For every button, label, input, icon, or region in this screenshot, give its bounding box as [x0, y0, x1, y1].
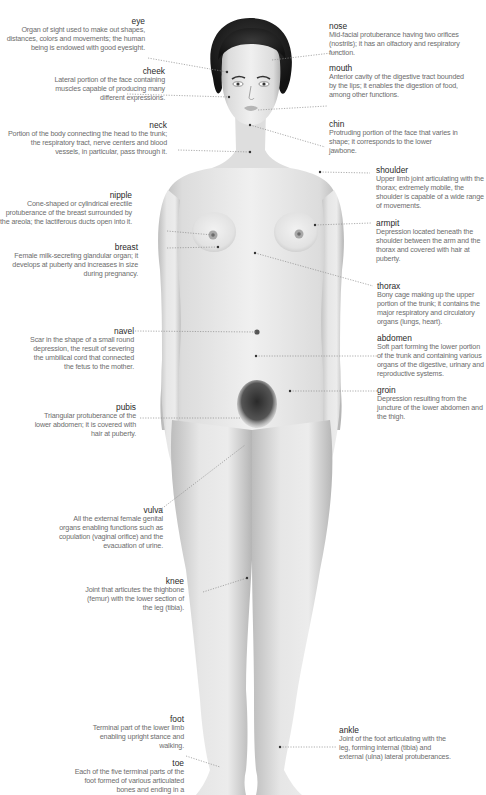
label-chin: chin Protruding portion of the face that…	[329, 119, 459, 156]
label-toe: toe Each of the five terminal parts of t…	[70, 758, 184, 795]
label-description: Soft part forming the lower portion of t…	[377, 343, 485, 379]
label-description: Upper limb joint articulating with the t…	[376, 175, 486, 211]
label-foot: foot Terminal part of the lower limb ena…	[80, 714, 184, 751]
label-description: Bony cage making up the upper portion of…	[377, 291, 485, 327]
label-ankle: ankle Joint of the foot articulating wit…	[339, 725, 457, 762]
label-description: Organ of sight used to make out shapes, …	[5, 26, 145, 53]
label-nose: nose Mid-facial protuberance having two …	[329, 21, 469, 58]
label-description: Joint that articutes the thighbone (femu…	[80, 586, 184, 613]
label-description: All the external female genital organs e…	[55, 515, 163, 551]
label-description: Mid-facial protuberance having two orifi…	[329, 31, 469, 58]
label-cheek: cheek Lateral portion of the face contai…	[5, 66, 165, 103]
label-breast: breast Female milk-secreting glandular o…	[0, 242, 138, 279]
label-pubis: pubis Triangular protuberance of the low…	[30, 402, 136, 439]
label-nipple: nipple Cone-shaped or cylindrical erecti…	[0, 190, 132, 227]
label-description: Each of the five terminal parts of the f…	[70, 768, 184, 795]
label-description: Joint of the foot articulating with the …	[339, 735, 457, 762]
label-description: Lateral portion of the face containing m…	[5, 76, 165, 103]
label-mouth: mouth Anterior cavity of the digestive t…	[329, 63, 469, 100]
label-navel: navel Scar in the shape of a small round…	[30, 326, 134, 372]
label-description: Cone-shaped or cylindrical erectile prot…	[0, 200, 132, 227]
label-description: Triangular protuberance of the lower abd…	[30, 412, 136, 439]
label-armpit: armpit Depression located beneath the sh…	[376, 218, 486, 264]
label-description: Scar in the shape of a small round depre…	[30, 336, 134, 372]
label-groin: groin Depression resulting from the junc…	[377, 385, 485, 422]
label-description: Depression located beneath the shoulder …	[376, 228, 486, 264]
label-description: Protruding portion of the face that vari…	[329, 129, 459, 156]
label-vulva: vulva All the external female genital or…	[55, 505, 163, 551]
label-description: Female milk-secreting glandular organ; i…	[0, 252, 138, 279]
label-description: Portion of the body connecting the head …	[5, 130, 167, 157]
label-thorax: thorax Bony cage making up the upper por…	[377, 281, 485, 327]
label-description: Terminal part of the lower limb enabling…	[80, 724, 184, 751]
right-leg	[252, 420, 332, 795]
label-eye: eye Organ of sight used to make out shap…	[5, 16, 145, 53]
label-description: Anterior cavity of the digestive tract b…	[329, 73, 469, 100]
pubic-hair	[237, 380, 277, 428]
label-knee: knee Joint that articutes the thighbone …	[80, 576, 184, 613]
label-shoulder: shoulder Upper limb joint articulating w…	[376, 165, 486, 211]
label-abdomen: abdomen Soft part forming the lower port…	[377, 333, 485, 379]
label-description: Depression resulting from the juncture o…	[377, 395, 485, 422]
label-neck: neck Portion of the body connecting the …	[5, 120, 167, 157]
face	[222, 40, 281, 125]
